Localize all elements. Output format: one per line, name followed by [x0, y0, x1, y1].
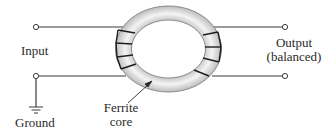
- input-bottom-terminal: [33, 73, 38, 78]
- input-label: Input: [21, 44, 48, 58]
- output-bottom-terminal: [282, 73, 287, 78]
- ground-label: Ground: [15, 116, 55, 130]
- ground-icon: [29, 107, 43, 113]
- ferrite-core-label-line1: Ferrite: [98, 101, 144, 115]
- terminals: [33, 24, 287, 78]
- wires: [36, 27, 283, 107]
- ferrite-core-label-line2: core: [98, 115, 144, 129]
- ferrite-core-label: Ferrite core: [98, 101, 144, 129]
- output-label-line2: (balanced): [258, 50, 329, 64]
- output-label-line1: Output: [258, 36, 329, 50]
- output-label: Output (balanced): [258, 36, 329, 64]
- ferrite-toroid-core: [116, 6, 222, 92]
- output-top-terminal: [282, 24, 287, 29]
- input-top-terminal: [33, 24, 38, 29]
